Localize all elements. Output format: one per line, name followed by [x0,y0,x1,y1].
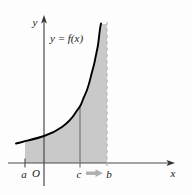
point-label-b: b [106,168,112,180]
origin-label: O [32,167,40,179]
shaded-area-region [25,24,107,163]
point-label-a: a [21,168,27,180]
point-label-c: c [77,168,82,180]
function-plot: y x O a c b y = f(x) [0,0,192,195]
x-axis-label: x [170,167,176,179]
limit-direction-arrow-icon [86,169,103,177]
function-equation-label: y = f(x) [49,32,83,45]
y-axis-label: y [32,16,38,28]
figure-container: y x O a c b y = f(x) [0,0,192,195]
